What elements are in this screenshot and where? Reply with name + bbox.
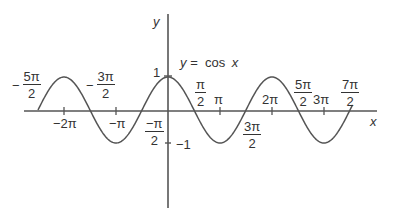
y-tick-label-neg-one: −1: [176, 138, 191, 151]
y-axis-label: y: [153, 15, 160, 28]
equation-func: = cos: [190, 55, 225, 70]
x-tick-label-neg-pi: −π: [109, 117, 126, 130]
y-tick-label-one: 1: [153, 66, 160, 79]
x-tick-label-pi: π: [214, 93, 223, 106]
equation-x: x: [232, 55, 239, 70]
x-tick-label-3pi-over-2: 3π2: [243, 120, 261, 150]
equation-label: y = cos x: [180, 56, 238, 69]
equation-y: y: [180, 55, 187, 70]
x-tick-label-neg-two-pi: −2π: [53, 117, 77, 130]
x-tick-label-neg-pi-over-2: −π2: [145, 117, 164, 147]
cosine-plot: [0, 0, 395, 218]
x-tick-label-two-pi: 2π: [262, 93, 278, 106]
x-tick-label-5pi-over-2: 5π2: [294, 78, 312, 108]
x-tick-label-three-pi: 3π: [313, 93, 329, 106]
x-axis-label: x: [370, 115, 377, 128]
x-tick-label-pi-over-2: π2: [195, 78, 206, 108]
x-tick-label-neg-5pi-over-2: − 5π2: [12, 70, 41, 100]
x-tick-label-neg-3pi-over-2: − 3π2: [86, 70, 115, 100]
x-tick-label-7pi-over-2: 7π2: [341, 78, 359, 108]
